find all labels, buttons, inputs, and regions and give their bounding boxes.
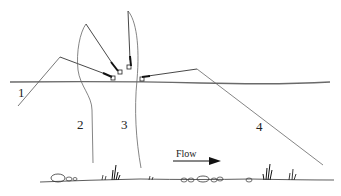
rod-2 [77,24,122,163]
riverbed [40,164,334,182]
stone [181,178,187,182]
label-4: 4 [256,120,263,133]
stone [246,178,252,182]
stone [73,178,77,181]
label-3: 3 [121,118,128,131]
rod-2-handle [111,62,118,71]
rod-3-shaft [128,11,130,60]
weed [112,165,120,180]
water-surface-line [10,82,330,84]
stone [66,177,72,181]
rod-1-shaft [60,57,108,75]
stone [211,178,217,182]
weed [263,164,272,180]
diagram-canvas: 1 2 3 4 Flow [0,0,341,196]
weed [289,169,296,180]
diagram-drawing [0,0,341,196]
label-2: 2 [77,118,84,131]
label-1: 1 [18,86,25,99]
rod-3-handle [130,56,131,66]
flow-label: Flow [176,149,197,159]
fly-line-2 [77,24,93,163]
rod-4-shaft [148,69,197,76]
weed [102,175,106,180]
reel-2 [118,70,122,74]
fly-line-3 [128,11,141,168]
rod-2-shaft [86,24,114,66]
rod-3 [127,11,141,168]
stone [188,178,194,182]
stone [51,174,65,182]
stone [197,176,209,182]
